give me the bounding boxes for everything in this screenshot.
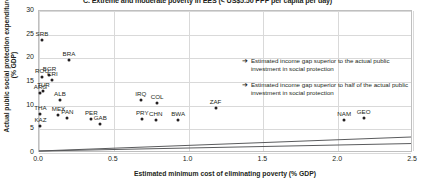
chart-title: C. Extreme and moderate poverty in EES (… [0,0,415,5]
legend-item-label: Estimated income gap superior to half of… [251,81,414,97]
legend-item: ➔ Estimated income gap superior to half … [242,81,414,97]
data-point-label: ALB [54,90,66,97]
data-point [40,76,43,79]
arrow-right-icon: ➔ [242,81,248,89]
x-axis-tick-label: 2.0 [322,155,352,162]
x-axis-tick-label: 0.5 [98,155,128,162]
y-axis-tick-label: 0 [8,148,34,155]
y-axis-tick-label: 20 [8,53,34,60]
data-point-label: GAB [94,114,107,121]
data-point [66,116,69,119]
x-axis-tick-label: 1.0 [173,155,203,162]
data-point [214,106,217,109]
data-point-label: GEO [357,108,371,115]
y-axis-title: Actual public social protection expendit… [3,0,17,135]
x-axis-title: Estimated minimum cost of eliminating po… [38,170,412,177]
data-point [39,124,42,127]
data-point-label: BWA [171,110,185,117]
data-point [58,98,61,101]
data-point-label: THA [34,104,46,111]
y-axis-tick-label: 25 [8,30,34,37]
y-axis-tick-label: 5 [8,124,34,131]
legend: ➔ Estimated income gap superior to the a… [242,57,414,105]
data-point [39,92,42,95]
data-point-label: COL [151,93,164,100]
grid-line-horizontal [39,153,411,154]
data-point-label: CHN [149,110,162,117]
y-axis-tick-label: 30 [8,6,34,13]
half-investment-line [39,144,411,151]
x-axis-tick-label: 1.5 [247,155,277,162]
data-point-label: PAN [61,108,73,115]
data-point [141,117,144,120]
data-point-label: IRQ [135,90,146,97]
actual-investment-line [39,137,411,151]
data-point-label: CRI [47,70,58,77]
legend-item: ➔ Estimated income gap superior to the a… [242,57,414,73]
y-axis-tick-label: 15 [8,77,34,84]
data-point [51,79,54,82]
data-point-label: NAM [337,110,351,117]
data-point [90,117,93,120]
data-point [139,98,142,101]
data-point [99,122,102,125]
data-point [154,119,157,122]
data-point-label: ZAF [210,98,222,105]
data-point-label: ARG [34,83,47,90]
data-point-label: PRY [136,109,149,116]
data-point [177,118,180,121]
data-point-label: SRB [36,30,49,37]
data-point [40,39,43,42]
legend-item-label: Estimated income gap superior to the act… [251,57,414,73]
data-point [343,119,346,122]
x-axis-tick-label: 0.0 [23,155,53,162]
data-point [57,114,60,117]
data-point-label: BRA [63,50,76,57]
data-point-label: KAZ [34,116,46,123]
data-point [67,59,70,62]
arrow-right-icon: ➔ [242,57,248,65]
data-point [156,101,159,104]
x-axis-tick-label: 2.5 [397,155,422,162]
y-axis-tick-label: 10 [8,101,34,108]
data-point [362,117,365,120]
